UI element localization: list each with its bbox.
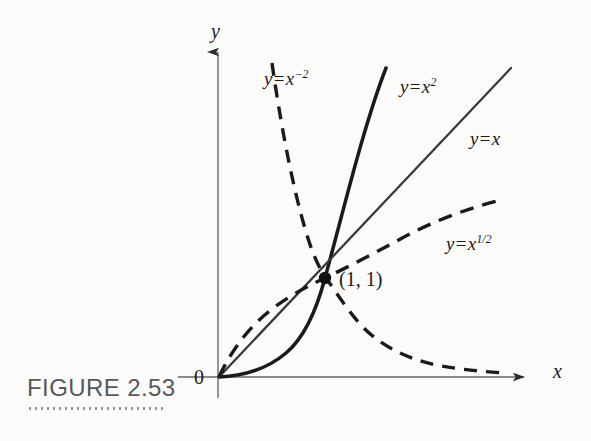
figure-container: y=x−2 y=x2 y=x y=x1/2 (1, 1) y x 0 FIGUR… [0, 0, 591, 441]
curve-label-x-to-negative-2: y=x−2 [264, 68, 308, 90]
intersection-point-label: (1, 1) [339, 268, 382, 291]
y-axis-label: y [211, 20, 220, 43]
label-lhs: y [264, 68, 273, 89]
label-lhs: y [446, 233, 455, 254]
label-exponent: −2 [294, 68, 308, 81]
curve-label-x-one-half: y=x1/2 [446, 233, 492, 255]
label-base: x [492, 128, 501, 149]
curve-label-x-linear: y=x [470, 128, 500, 150]
label-exponent: 2 [430, 76, 436, 89]
axes-group [178, 52, 524, 398]
figure-caption-dotted-rule [27, 407, 167, 410]
label-op: = [273, 68, 286, 89]
curve-label-x-squared: y=x2 [400, 76, 436, 98]
figure-caption-text: FIGURE 2.53 [27, 376, 175, 400]
intersection-point-marker [319, 272, 331, 284]
figure-caption: FIGURE 2.53 [27, 376, 175, 410]
label-op: = [455, 233, 468, 254]
label-op: = [479, 128, 492, 149]
label-lhs: y [400, 76, 409, 97]
label-op: = [409, 76, 422, 97]
label-lhs: y [470, 128, 479, 149]
x-axis-label: x [553, 360, 562, 383]
origin-label: 0 [194, 366, 204, 389]
label-exponent: 1/2 [476, 233, 491, 246]
